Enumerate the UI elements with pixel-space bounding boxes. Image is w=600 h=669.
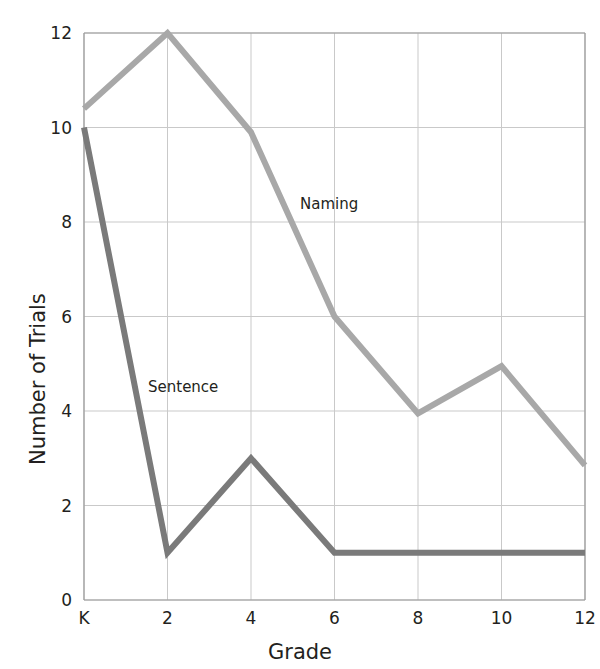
x-axis-title: Grade bbox=[0, 640, 600, 664]
x-tick-label: 10 bbox=[491, 608, 513, 628]
y-tick-label: 8 bbox=[28, 212, 72, 232]
x-tick-label: 4 bbox=[246, 608, 257, 628]
x-tick-label: 2 bbox=[162, 608, 173, 628]
y-tick-label: 10 bbox=[28, 118, 72, 138]
series-label-sentence: Sentence bbox=[148, 378, 218, 396]
chart-canvas bbox=[0, 0, 600, 669]
x-tick-label: K bbox=[78, 608, 89, 628]
y-axis-title: Number of Trials bbox=[26, 293, 50, 465]
series-label-naming: Naming bbox=[300, 195, 358, 213]
y-tick-label: 2 bbox=[28, 496, 72, 516]
x-tick-label: 12 bbox=[574, 608, 596, 628]
x-tick-label: 6 bbox=[329, 608, 340, 628]
x-tick-label: 8 bbox=[413, 608, 424, 628]
y-tick-label: 0 bbox=[28, 590, 72, 610]
y-tick-label: 12 bbox=[28, 23, 72, 43]
line-chart: 024681012 K24681012 NamingSentence Grade… bbox=[0, 0, 600, 669]
